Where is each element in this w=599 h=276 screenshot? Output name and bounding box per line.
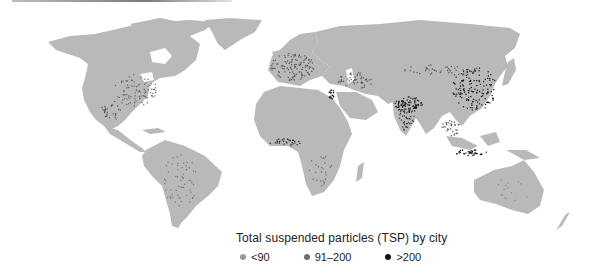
madagascar xyxy=(356,162,364,182)
greenland xyxy=(205,18,262,50)
southeast-asia-islands xyxy=(446,132,540,160)
legend-label-high: >200 xyxy=(396,251,421,263)
africa xyxy=(254,86,352,196)
legend-label-medium: 91–200 xyxy=(315,251,352,263)
world-map xyxy=(0,0,599,230)
legend-item-high: >200 xyxy=(385,251,421,263)
australia xyxy=(474,160,544,214)
legend-dot-medium-icon xyxy=(304,254,310,260)
new-zealand xyxy=(556,212,570,230)
central-america xyxy=(104,126,146,152)
legend-title: Total suspended particles (TSP) by city xyxy=(236,231,451,245)
south-america xyxy=(142,140,222,228)
legend-item-medium: 91–200 xyxy=(304,251,352,263)
legend: Total suspended particles (TSP) by city … xyxy=(236,231,451,263)
legend-dot-high-icon xyxy=(385,254,391,260)
north-america xyxy=(48,20,215,130)
legend-label-low: <90 xyxy=(251,251,270,263)
legend-dot-low-icon xyxy=(240,254,246,260)
legend-items: <90 91–200 >200 xyxy=(236,251,451,263)
caribbean xyxy=(142,128,166,134)
legend-item-low: <90 xyxy=(240,251,270,263)
